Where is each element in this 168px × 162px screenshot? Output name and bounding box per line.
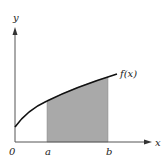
shaded-area [47, 77, 108, 142]
interval-end-label: b [106, 146, 112, 157]
x-axis-label: x [155, 137, 161, 148]
interval-start-label: a [45, 146, 51, 157]
y-axis-label: y [12, 12, 19, 23]
function-label: f(x) [119, 68, 137, 79]
x-axis-arrow-icon [144, 140, 152, 145]
y-axis-arrow-icon [13, 27, 18, 35]
origin-label: 0 [9, 146, 16, 157]
area-under-curve-diagram: y x 0 a b f(x) [0, 0, 168, 162]
